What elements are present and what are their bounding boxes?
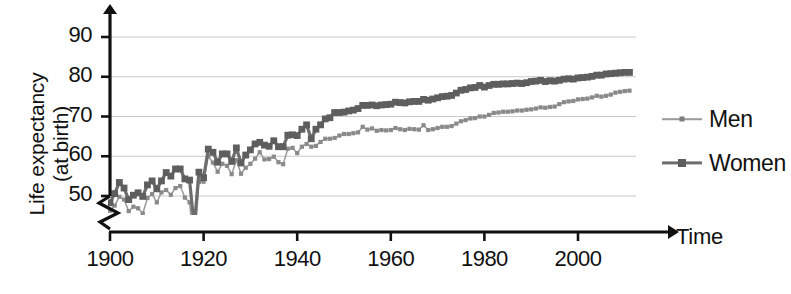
series-men (108, 89, 632, 252)
data-point-marker (347, 132, 351, 136)
data-point-marker (389, 128, 393, 132)
data-point-marker (375, 129, 379, 133)
data-point-marker (553, 104, 557, 108)
data-point-marker (169, 193, 173, 197)
data-point-marker (300, 145, 304, 149)
data-point-marker (337, 133, 341, 137)
data-point-marker (524, 108, 528, 112)
y-axis-tick-label: 70 (46, 102, 92, 128)
data-point-marker (131, 205, 135, 209)
x-axis-tick-label: 1960 (348, 246, 434, 272)
data-point-marker (473, 116, 477, 120)
data-point-marker (214, 159, 221, 166)
data-point-marker (464, 118, 468, 122)
data-point-marker (191, 224, 198, 231)
data-point-marker (515, 108, 519, 112)
data-point-marker (379, 128, 383, 132)
data-point-marker (233, 145, 240, 152)
data-point-marker (370, 126, 374, 130)
data-point-marker (150, 192, 154, 196)
data-point-marker (149, 178, 156, 185)
data-point-marker (468, 116, 472, 120)
data-point-marker (604, 94, 608, 98)
data-point-marker (247, 146, 254, 153)
data-point-marker (585, 97, 589, 101)
x-axis-tick-label: 1940 (254, 246, 340, 272)
data-point-marker (623, 89, 627, 93)
data-point-marker (599, 95, 603, 99)
x-axis-tick-label: 1920 (161, 246, 247, 272)
data-point-marker (304, 142, 308, 146)
data-point-marker (501, 110, 505, 114)
gridlines (110, 37, 636, 196)
data-point-marker (492, 111, 496, 115)
legend-item-men: Men (662, 106, 786, 132)
data-point-marker (238, 160, 245, 167)
data-point-marker (127, 209, 131, 213)
data-point-marker (216, 170, 220, 174)
data-point-marker (496, 110, 500, 114)
data-point-marker (186, 177, 193, 184)
data-point-marker (609, 93, 613, 97)
data-point-marker (384, 128, 388, 132)
data-point-marker (270, 137, 277, 144)
data-point-marker (618, 90, 622, 94)
data-point-marker (520, 108, 524, 112)
data-point-marker (627, 89, 631, 93)
data-point-marker (317, 121, 324, 128)
data-point-marker (487, 113, 491, 117)
data-point-marker (613, 91, 617, 95)
legend-swatch-women-icon (662, 156, 702, 170)
data-point-marker (590, 95, 594, 99)
series-layer (107, 69, 633, 251)
data-point-marker (436, 126, 440, 130)
data-point-marker (454, 122, 458, 126)
x-axis-tick-label: 1900 (67, 246, 153, 272)
data-point-marker (626, 69, 633, 76)
y-axis-tick-label: 90 (46, 22, 92, 48)
data-point-marker (421, 123, 425, 127)
y-axis-tick-label: 60 (46, 141, 92, 167)
data-point-marker (567, 99, 571, 103)
data-point-marker (253, 157, 257, 161)
data-point-marker (281, 162, 285, 166)
data-point-marker (557, 102, 561, 106)
data-point-marker (153, 185, 160, 192)
data-point-marker (506, 110, 510, 114)
data-point-marker (308, 135, 315, 142)
data-point-marker (228, 158, 235, 165)
life-expectancy-chart: Life expectancy (at birth) 5060708090 19… (0, 0, 791, 294)
data-point-marker (139, 193, 146, 200)
y-axis-tick-label: 80 (46, 62, 92, 88)
data-point-marker (309, 145, 313, 149)
legend-label-women: Women (709, 150, 786, 177)
data-point-marker (121, 185, 128, 192)
data-point-marker (571, 99, 575, 103)
y-axis-arrow-icon (103, 4, 117, 14)
data-point-marker (576, 97, 580, 101)
data-point-marker (412, 127, 416, 131)
data-point-marker (167, 173, 174, 180)
data-point-marker (333, 136, 337, 140)
data-point-marker (351, 131, 355, 135)
chart-legend: Men Women (662, 106, 786, 176)
data-point-marker (258, 150, 262, 154)
legend-label-men: Men (709, 106, 753, 133)
data-point-marker (510, 109, 514, 113)
data-point-marker (200, 174, 207, 181)
data-point-marker (136, 206, 140, 210)
data-point-marker (529, 107, 533, 111)
data-point-marker (141, 211, 145, 215)
data-point-marker (173, 186, 177, 190)
data-point-marker (107, 199, 114, 206)
data-point-marker (158, 178, 165, 185)
data-point-marker (403, 128, 407, 132)
data-point-marker (562, 100, 566, 104)
data-point-marker (342, 132, 346, 136)
data-point-marker (267, 157, 271, 161)
data-point-marker (328, 137, 332, 141)
data-point-marker (538, 105, 542, 109)
axis-layer (99, 4, 679, 241)
data-point-marker (459, 119, 463, 123)
data-point-marker (239, 172, 243, 176)
